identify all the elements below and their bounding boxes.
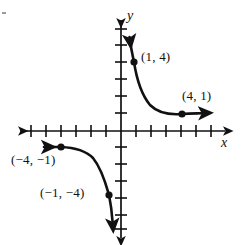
- point-label-minus4-minus1: (−4, −1): [11, 152, 55, 168]
- x-axis-label: x: [221, 135, 227, 151]
- y-axis: [115, 20, 127, 238]
- point-dot-1-4: [130, 58, 137, 65]
- point-dot-4-1: [178, 110, 185, 117]
- x-axis: [20, 125, 225, 137]
- point-label-1-4: (1, 4): [141, 49, 170, 65]
- y-axis-label: y: [127, 8, 133, 24]
- point-dot-minus4-minus1: [57, 143, 64, 150]
- coordinate-plane: [0, 0, 245, 245]
- graph-figure: (1, 4) (4, 1) (−4, −1) (−1, −4) x y: [0, 0, 245, 245]
- point-label-minus1-minus4: (−1, −4): [40, 185, 84, 201]
- point-label-4-1: (4, 1): [182, 88, 211, 104]
- point-dot-minus1-minus4: [105, 191, 112, 198]
